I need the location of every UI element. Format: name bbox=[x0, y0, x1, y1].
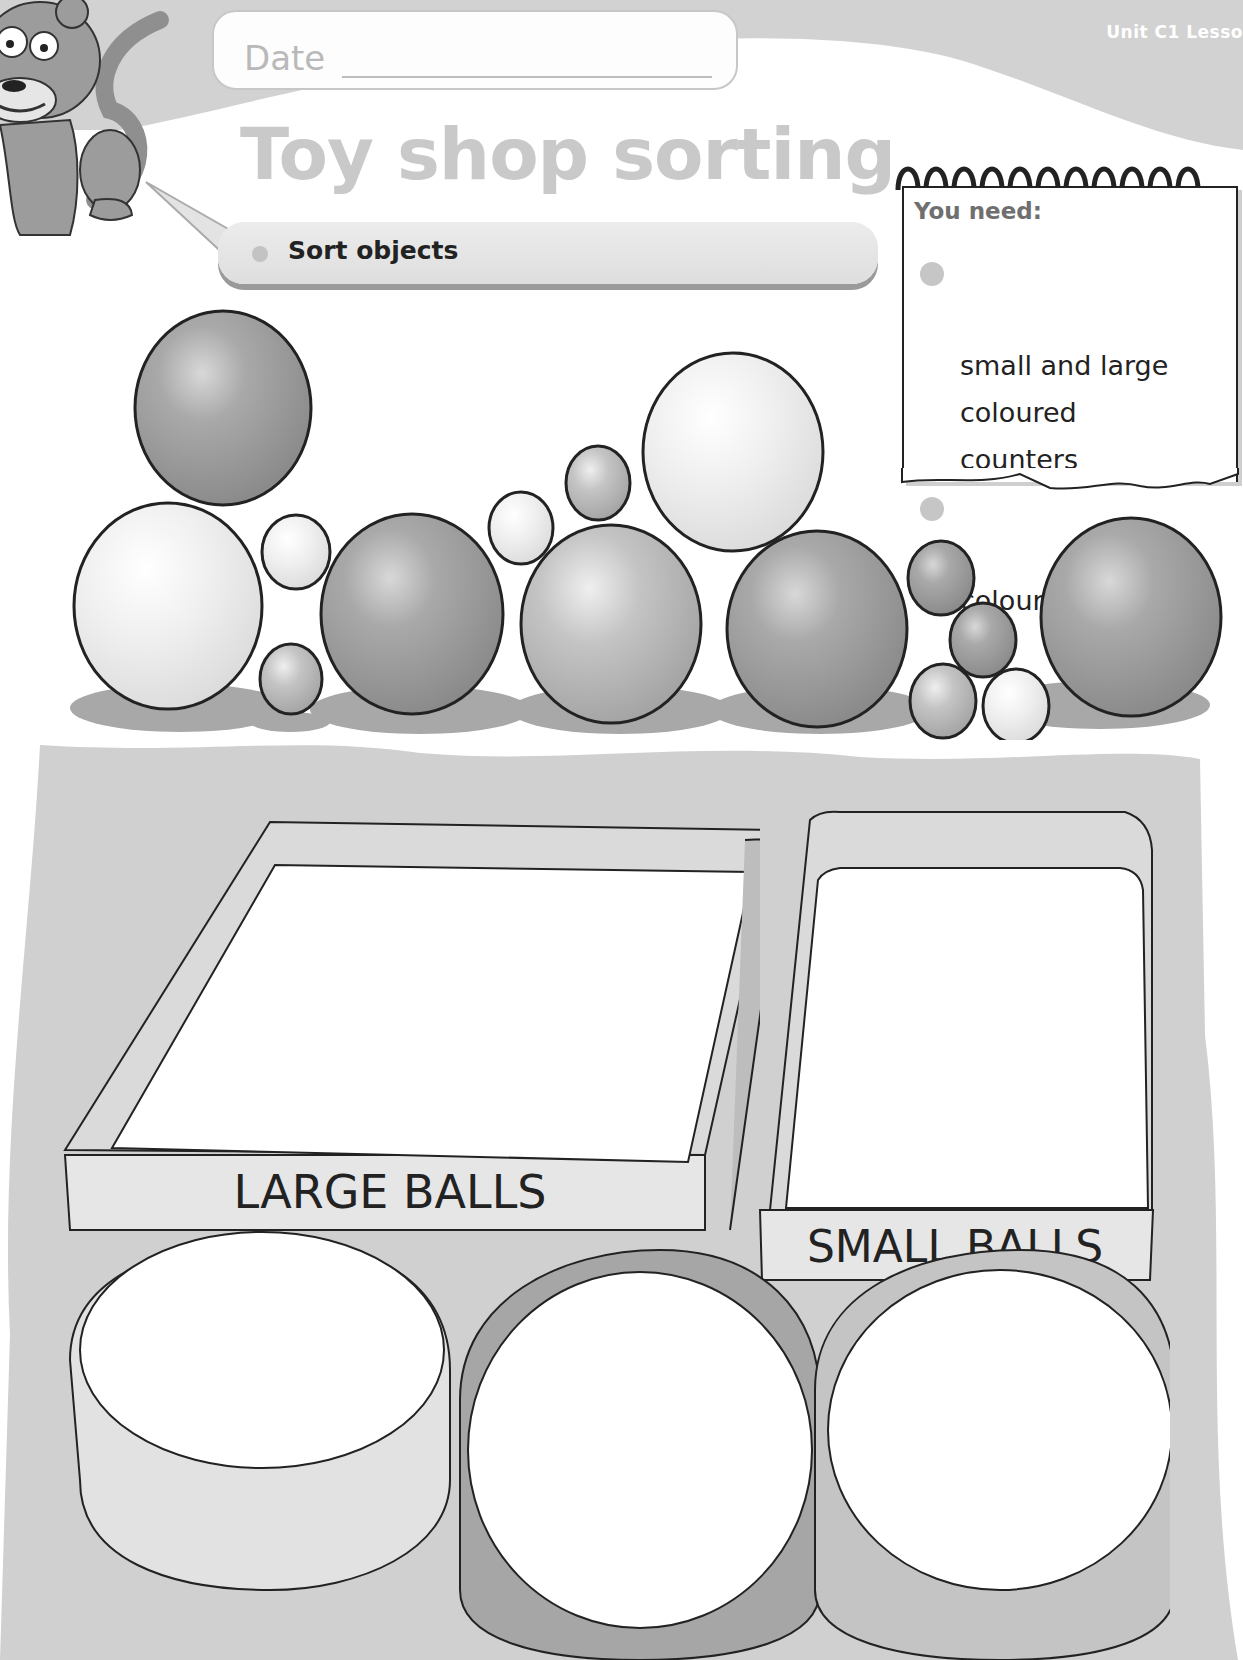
small-ball bbox=[566, 446, 630, 520]
date-field[interactable]: Date bbox=[212, 10, 738, 90]
hoop-3 bbox=[815, 1250, 1170, 1660]
small-balls-box[interactable]: SMALL BALLS bbox=[740, 810, 1160, 1290]
large-ball bbox=[321, 514, 503, 714]
date-write-line[interactable] bbox=[342, 76, 712, 78]
large-balls-label: LARGE BALLS bbox=[234, 1165, 547, 1219]
small-ball bbox=[260, 644, 322, 714]
sorting-hoops bbox=[40, 1220, 1170, 1660]
bullet-dot-icon bbox=[920, 262, 944, 286]
small-ball bbox=[983, 669, 1049, 740]
hoop-1 bbox=[70, 1232, 450, 1590]
large-ball bbox=[643, 353, 823, 551]
large-ball bbox=[521, 525, 701, 723]
small-ball bbox=[262, 515, 330, 589]
large-balls-box[interactable]: LARGE BALLS bbox=[40, 810, 760, 1250]
page-title: Toy shop sorting bbox=[240, 112, 895, 196]
large-ball bbox=[74, 503, 262, 709]
small-ball bbox=[908, 541, 974, 615]
hoop-2 bbox=[460, 1250, 820, 1660]
small-ball bbox=[489, 492, 553, 564]
objective-text: Sort objects bbox=[288, 236, 458, 265]
you-need-heading: You need: bbox=[914, 198, 1042, 224]
small-ball bbox=[950, 603, 1016, 677]
large-ball bbox=[727, 531, 907, 727]
large-ball bbox=[1041, 518, 1221, 716]
large-ball bbox=[135, 311, 311, 505]
date-label: Date bbox=[244, 38, 325, 78]
small-ball bbox=[910, 664, 976, 738]
unit-lesson-label: Unit C1 Lesso bbox=[1106, 22, 1243, 42]
objective-bubble: Sort objects bbox=[218, 222, 878, 284]
balls-illustration bbox=[0, 300, 1243, 740]
bullet-dot-icon bbox=[252, 246, 268, 262]
